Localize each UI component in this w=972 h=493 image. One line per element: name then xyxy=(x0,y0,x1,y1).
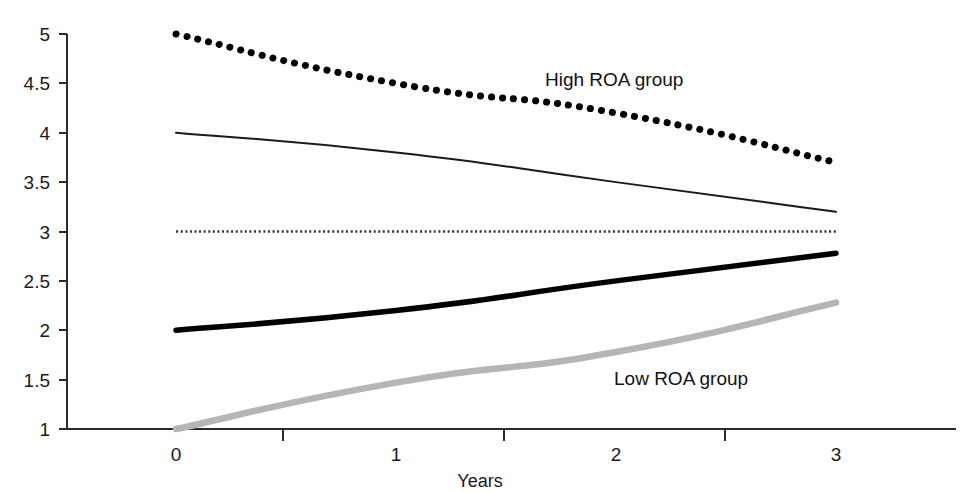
x-tick-label-1: 1 xyxy=(391,444,402,465)
line-chart: 5 4.5 4 3.5 3 2.5 2 1.5 1 0 1 2 3 Years xyxy=(0,0,972,493)
series-second-group xyxy=(176,133,836,212)
series-high-roa-group xyxy=(176,34,836,162)
series-fourth-group xyxy=(176,253,836,330)
y-tick-label-2-5: 2.5 xyxy=(24,271,50,292)
y-tick-label-2: 2 xyxy=(39,320,50,341)
y-tick-label-3-5: 3.5 xyxy=(24,172,50,193)
y-tick-label-4-5: 4.5 xyxy=(24,73,50,94)
x-axis-ticks xyxy=(283,429,725,441)
chart-container: 5 4.5 4 3.5 3 2.5 2 1.5 1 0 1 2 3 Years xyxy=(0,0,972,493)
x-axis-labels: 0 1 2 3 xyxy=(171,444,842,465)
y-tick-label-4: 4 xyxy=(39,123,50,144)
x-axis-title: Years xyxy=(457,471,502,491)
y-axis-ticks xyxy=(59,34,67,429)
annotation-low-roa-group: Low ROA group xyxy=(614,368,748,389)
y-tick-label-1-5: 1.5 xyxy=(24,370,50,391)
y-tick-label-1: 1 xyxy=(39,419,50,440)
x-tick-label-3: 3 xyxy=(831,444,842,465)
y-tick-label-3: 3 xyxy=(39,222,50,243)
x-tick-label-2: 2 xyxy=(611,444,622,465)
y-axis-labels: 5 4.5 4 3.5 3 2.5 2 1.5 1 xyxy=(24,24,51,440)
x-tick-label-0: 0 xyxy=(171,444,182,465)
annotation-high-roa-group: High ROA group xyxy=(545,69,683,90)
y-tick-label-5: 5 xyxy=(39,24,50,45)
